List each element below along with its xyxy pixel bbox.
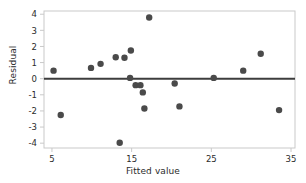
data-points (50, 14, 282, 146)
data-point (137, 82, 143, 88)
x-tick-label: 35 (286, 154, 297, 164)
data-point (176, 103, 182, 109)
x-axis-title: Fitted value (0, 166, 306, 176)
data-point (113, 54, 119, 60)
y-tick-label: 2 (32, 42, 37, 52)
data-point (276, 107, 282, 113)
axis-tick-labels: 515253543210-1-2-3-4 (29, 9, 297, 164)
data-point (97, 61, 103, 67)
data-point (211, 75, 217, 81)
data-point (240, 67, 246, 73)
data-point (141, 105, 147, 111)
y-tick-label: 0 (32, 74, 37, 84)
data-point (121, 55, 127, 61)
data-point (140, 89, 146, 95)
y-tick-label: 1 (32, 58, 37, 68)
data-point (128, 47, 134, 53)
data-point (58, 112, 64, 118)
x-tick-label: 5 (49, 154, 54, 164)
y-axis-title: Residual (8, 30, 18, 100)
data-point (50, 67, 56, 73)
plot-area: 515253543210-1-2-3-4 (0, 0, 306, 183)
y-tick-label: -3 (29, 122, 37, 132)
y-tick-label: 3 (32, 26, 37, 36)
y-tick-label: -1 (29, 90, 37, 100)
data-point (171, 80, 177, 86)
x-tick-label: 25 (206, 154, 217, 164)
residual-scatter-chart: 515253543210-1-2-3-4 Fitted value Residu… (0, 0, 306, 183)
data-point (127, 75, 133, 81)
x-tick-label: 15 (126, 154, 137, 164)
data-point (258, 51, 264, 57)
data-point (146, 14, 152, 20)
data-point (88, 65, 94, 71)
y-tick-label: -4 (29, 138, 37, 148)
axis-ticks (40, 14, 291, 152)
y-tick-label: -2 (29, 106, 37, 116)
data-point (116, 139, 122, 145)
y-tick-label: 4 (32, 9, 37, 19)
